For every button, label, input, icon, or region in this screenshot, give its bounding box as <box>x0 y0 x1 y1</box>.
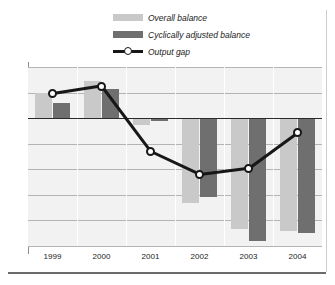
legend-label-cyclically-adjusted-balance: Cyclically adjusted balance <box>148 30 250 40</box>
output-gap-marker-2002 <box>195 170 204 179</box>
figure-right-rule <box>326 10 327 272</box>
x-axis-tick-label: 1999 <box>30 252 76 261</box>
gridline <box>28 246 322 247</box>
output-gap-marker-2004 <box>293 128 302 137</box>
legend-item-cyclically-adjusted-balance: Cyclically adjusted balance <box>113 27 328 42</box>
bar-cyclically-adjusted-balance-2003 <box>249 118 266 241</box>
x-axis-tick-label: 2001 <box>128 252 174 261</box>
bar-cyclically-adjusted-balance-1999 <box>53 103 70 118</box>
zero-axis-line <box>28 118 322 119</box>
legend-circle-marker-icon <box>124 47 132 55</box>
legend-swatch-cyclically-adjusted-balance-icon <box>113 31 143 38</box>
legend-swatch-overall-balance-icon <box>113 14 143 21</box>
output-gap-marker-2000 <box>97 82 106 91</box>
category-separator <box>126 67 127 246</box>
category-separator <box>273 67 274 246</box>
x-axis-tick-label: 2003 <box>226 252 272 261</box>
x-axis-tick-label: 2002 <box>177 252 223 261</box>
legend-item-overall-balance: Overall balance <box>113 10 328 25</box>
chart-legend: Overall balance Cyclically adjusted bala… <box>113 10 328 61</box>
output-gap-marker-2003 <box>244 164 253 173</box>
category-separator <box>175 67 176 246</box>
category-separator <box>224 67 225 246</box>
plot-band <box>126 67 175 246</box>
bar-overall-balance-2003 <box>231 118 248 229</box>
legend-label-output-gap: Output gap <box>148 47 190 57</box>
legend-label-overall-balance: Overall balance <box>148 13 207 23</box>
plot-area: 210-1-2-3-4-5199920002001200220032004 <box>28 67 322 246</box>
bar-overall-balance-2002 <box>182 118 199 202</box>
category-separator <box>77 67 78 246</box>
x-axis-tick-label: 2004 <box>275 252 321 261</box>
x-axis-tick-label: 2000 <box>79 252 125 261</box>
output-gap-marker-2001 <box>146 147 155 156</box>
legend-item-output-gap: Output gap <box>113 44 328 59</box>
chart-figure: Overall balance Cyclically adjusted bala… <box>0 0 335 285</box>
figure-bottom-rule <box>8 272 326 274</box>
legend-swatch-output-gap-icon <box>113 47 143 56</box>
bar-cyclically-adjusted-balance-2002 <box>200 118 217 197</box>
